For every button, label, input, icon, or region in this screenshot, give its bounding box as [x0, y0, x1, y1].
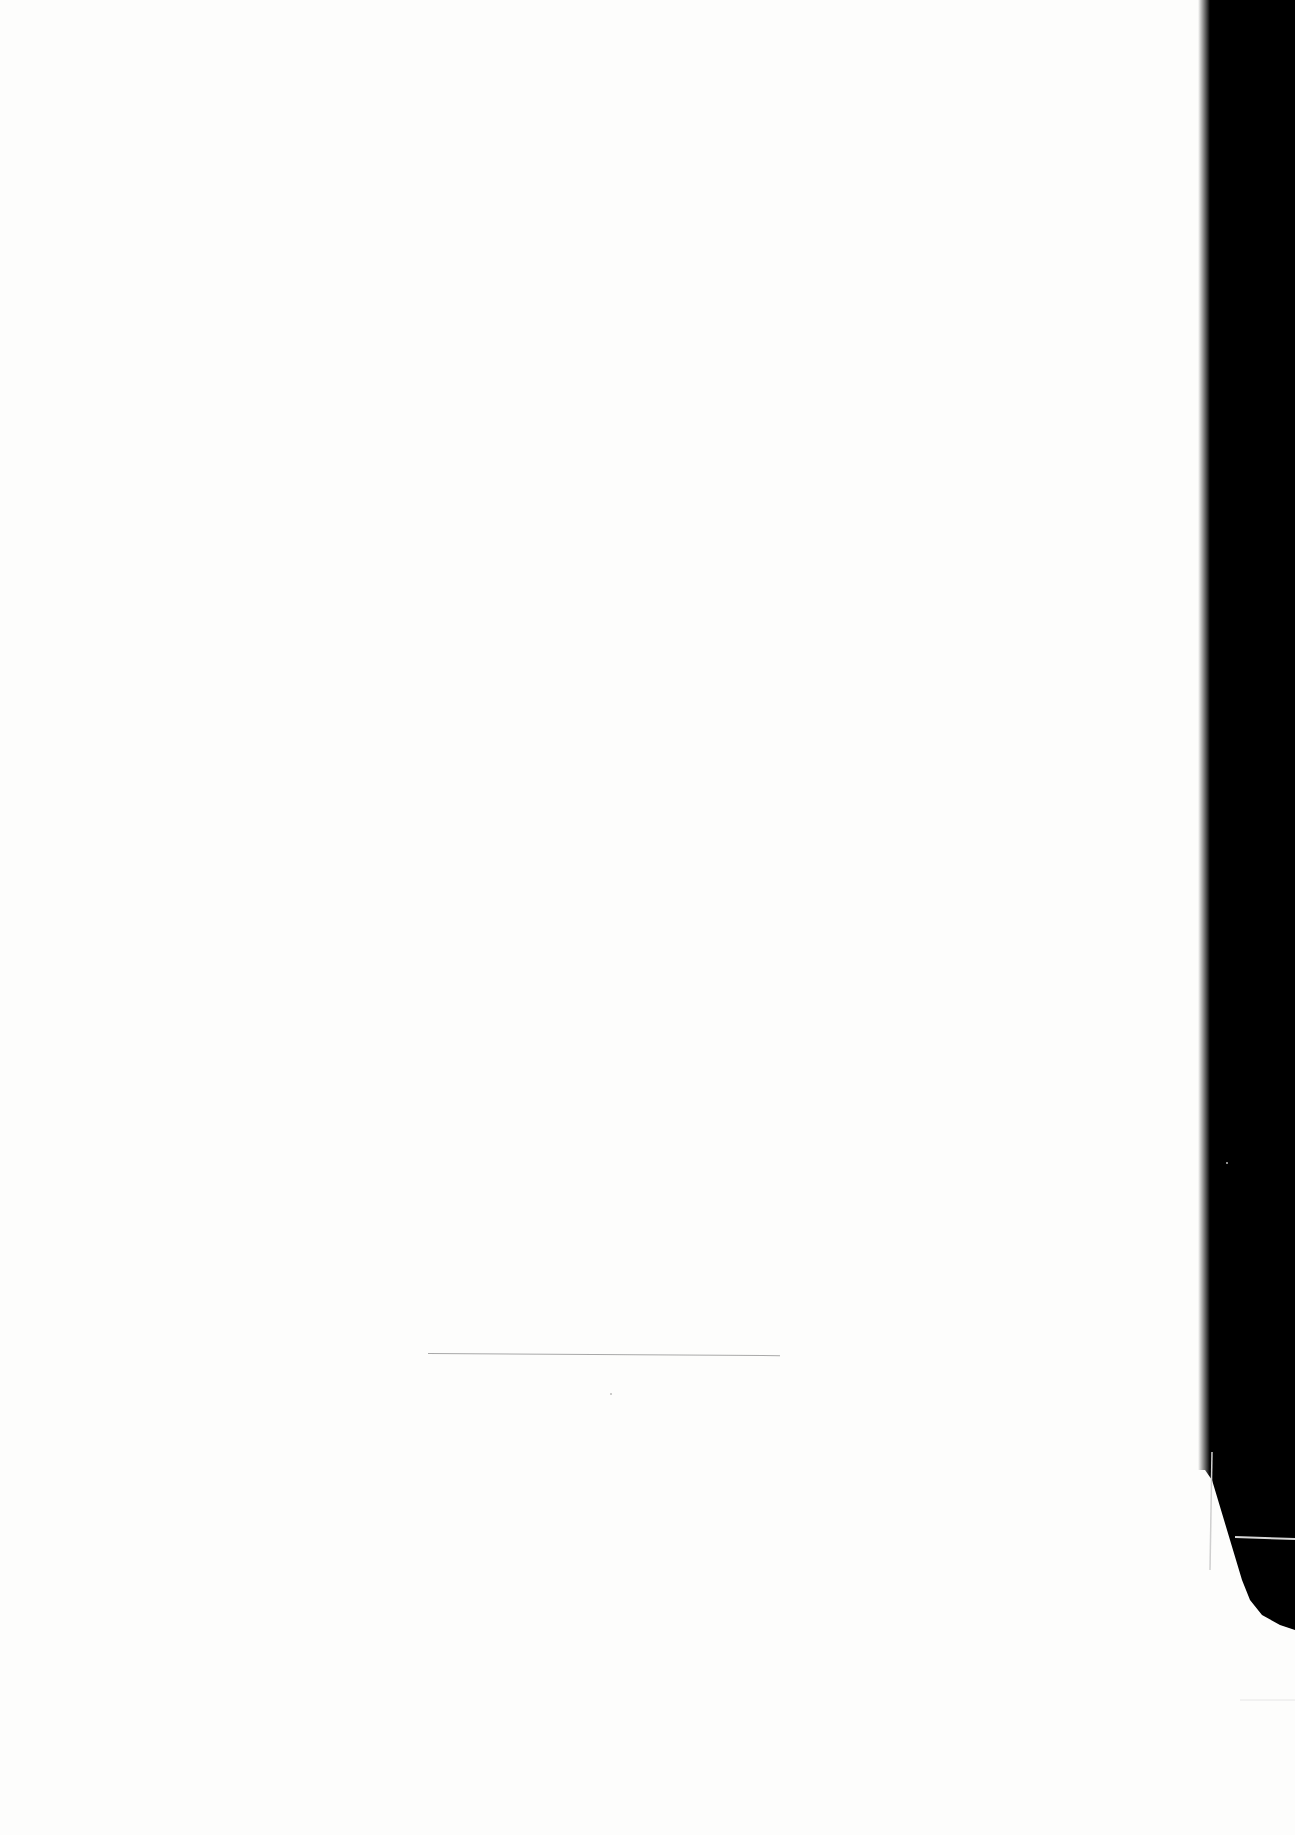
page-edge	[1190, 0, 1210, 1835]
speck	[610, 1393, 612, 1395]
speck	[1226, 1162, 1228, 1164]
scanned-page	[0, 0, 1198, 1835]
